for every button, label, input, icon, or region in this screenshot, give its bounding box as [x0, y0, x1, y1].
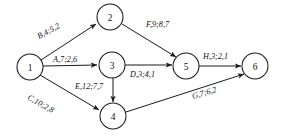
edge-label-D: D,3;4,1	[129, 70, 155, 79]
node-label-3: 3	[110, 61, 115, 71]
node-label-1: 1	[28, 63, 33, 73]
edge-label-C: C,10;2,8	[26, 93, 55, 115]
edge-label-A: A,7;2,6	[52, 55, 78, 64]
edge-1-to-3	[43, 65, 97, 66]
edge-label-F: F,9;8,7	[145, 20, 170, 29]
network-diagram: 123456 B,4;5,2A,7;2,6C,10;2,8F,9;8,7D,3;…	[0, 0, 282, 136]
graph-canvas: 123456 B,4;5,2A,7;2,6C,10;2,8F,9;8,7D,3;…	[0, 0, 282, 136]
edge-4-to-6	[126, 74, 244, 112]
node-label-5: 5	[184, 62, 189, 72]
node-label-4: 4	[111, 112, 116, 122]
edge-label-B: B,4;5,2	[36, 22, 62, 41]
edges-layer	[40, 24, 244, 112]
edge-label-E: E,12;7,7	[74, 82, 104, 91]
edge-label-H: H,3;2,1	[202, 52, 228, 61]
edge-label-G: G,7;6,2	[191, 85, 218, 101]
node-label-2: 2	[108, 13, 113, 23]
node-label-6: 6	[253, 62, 258, 72]
